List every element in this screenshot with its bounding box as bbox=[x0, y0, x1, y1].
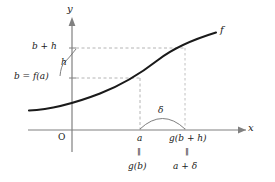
delta-label: δ bbox=[158, 106, 163, 115]
x-tick-label-gbh: g(b + h) bbox=[169, 134, 207, 143]
x-axis-label: x bbox=[248, 123, 254, 133]
x-tick-equals-gbh: ‖ bbox=[185, 148, 189, 156]
origin-label: O bbox=[58, 133, 65, 142]
h-label: h bbox=[61, 58, 67, 67]
x-axis-arrowhead bbox=[238, 127, 246, 134]
function-curve bbox=[29, 33, 216, 111]
y-tick-label-b-plus-h: b + h bbox=[32, 42, 57, 51]
delta-arc bbox=[140, 119, 185, 130]
x-tick-alias-gb: g(b) bbox=[128, 162, 147, 171]
x-tick-alias-a-plus-delta: a + δ bbox=[173, 162, 197, 171]
curve-label-f: f bbox=[220, 25, 224, 35]
y-axis-label: y bbox=[67, 4, 73, 14]
y-tick-label-b-equals-fa: b = f(a) bbox=[14, 72, 49, 81]
function-graph-figure: x y O f b + h b = f(a) h δ a ‖ g(b) g(b … bbox=[0, 0, 275, 182]
x-tick-label-a: a bbox=[137, 134, 142, 143]
y-axis-arrowhead bbox=[69, 17, 76, 26]
x-tick-equals-a: ‖ bbox=[137, 148, 141, 156]
